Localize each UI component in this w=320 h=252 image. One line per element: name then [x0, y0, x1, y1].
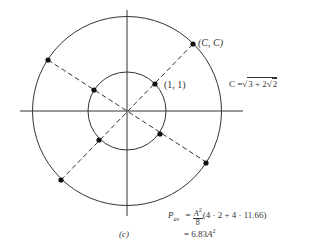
inner-point-nw — [91, 87, 96, 92]
radical-outer: 3 + 2√2 — [247, 77, 277, 89]
outer-point-ne — [190, 41, 195, 46]
figure-caption: (c) — [119, 229, 129, 239]
inner-point-se — [157, 131, 162, 136]
inner-point-label: (1, 1) — [164, 79, 186, 90]
outer-point-label: (C, C) — [198, 37, 223, 48]
outer-point-nw — [45, 57, 50, 62]
outer-point-se — [203, 160, 208, 165]
fraction: A28 — [193, 206, 203, 227]
pav-result: = 6.83A2 — [184, 228, 216, 239]
pav-formula: Pav = A28(4 · 2 + 4 · 11.66) — [168, 206, 267, 227]
outer-point-sw — [58, 177, 63, 182]
radical-inner: 2 — [272, 78, 278, 89]
c-definition: C =√3 + 2√2 — [229, 77, 277, 89]
inner-point-ne — [152, 81, 157, 86]
c-definition-lhs: C = — [229, 79, 242, 89]
inner-point-sw — [96, 137, 101, 142]
